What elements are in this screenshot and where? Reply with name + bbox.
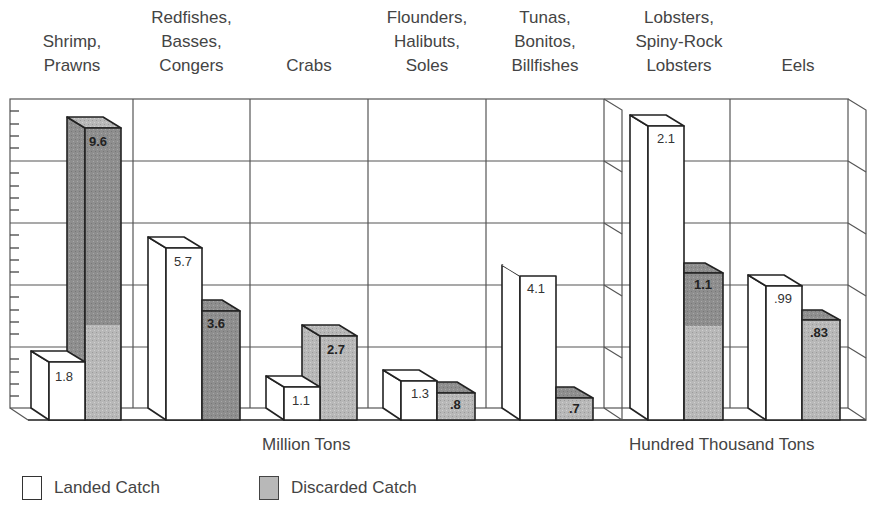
value-label: 1.1	[694, 277, 712, 292]
bar-chart-3d	[0, 0, 883, 470]
value-label: .99	[774, 291, 792, 306]
unit-label-million-tons: Million Tons	[262, 435, 351, 455]
value-label: .8	[450, 397, 461, 412]
bar-shrimp-landed	[31, 351, 85, 420]
value-label: 3.6	[207, 316, 225, 331]
legend-item-discarded: Discarded Catch	[259, 476, 417, 500]
y-axis-ticks	[10, 111, 19, 396]
value-label: 2.1	[657, 131, 675, 146]
unit-label-hundred-thousand-tons: Hundred Thousand Tons	[629, 435, 815, 455]
bar-lobsters-landed	[630, 115, 684, 420]
value-label: 1.3	[411, 386, 429, 401]
legend-item-landed: Landed Catch	[22, 476, 160, 500]
value-label: .83	[810, 325, 828, 340]
value-label: .7	[569, 401, 580, 416]
landed-swatch-icon	[22, 476, 42, 500]
legend-label-discarded: Discarded Catch	[291, 478, 417, 498]
value-label: 5.7	[174, 254, 192, 269]
legend-label-landed: Landed Catch	[54, 478, 160, 498]
discarded-swatch-icon	[259, 476, 279, 500]
value-label: 1.1	[292, 393, 310, 408]
value-label: 1.8	[55, 369, 73, 384]
value-label: 2.7	[327, 342, 345, 357]
value-label: 9.6	[89, 134, 107, 149]
value-label: 4.1	[527, 281, 545, 296]
grid	[10, 99, 866, 420]
